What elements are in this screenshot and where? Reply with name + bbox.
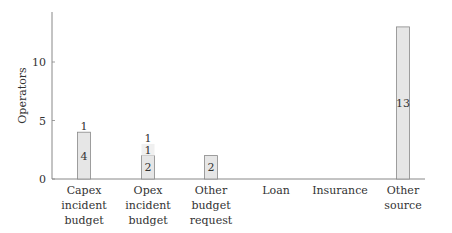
- bar-value-label: 1: [145, 132, 152, 145]
- x-tick-label: budget: [64, 214, 104, 227]
- bar-value-label: 1: [81, 120, 88, 133]
- bar-value-label: 1: [145, 144, 152, 157]
- x-tick-label: incident: [125, 199, 171, 212]
- bar-value-label: 2: [208, 161, 215, 174]
- y-tick-label: 10: [32, 56, 46, 69]
- x-tick-label: Other: [387, 184, 420, 197]
- x-tick-label: Insurance: [312, 184, 368, 197]
- x-tick-label: source: [384, 199, 421, 212]
- bar-value-label: 4: [81, 150, 88, 163]
- x-tick-label: Capex: [67, 184, 103, 197]
- x-tick-label: incident: [61, 199, 107, 212]
- x-tick-label: Other: [195, 184, 228, 197]
- x-tick-label: budget: [191, 199, 231, 212]
- x-tick-label: budget: [128, 214, 168, 227]
- x-tick-label: request: [190, 214, 233, 227]
- y-tick-label: 5: [39, 115, 46, 128]
- bar-chart: 0510Operators41Capexincidentbudget211Ope…: [0, 0, 452, 233]
- x-tick-label: Opex: [134, 184, 164, 197]
- bar-value-label: 2: [145, 161, 152, 174]
- chart: 0510Operators41Capexincidentbudget211Ope…: [0, 0, 452, 233]
- x-tick-label: Loan: [262, 184, 290, 197]
- y-tick-label: 0: [39, 173, 46, 186]
- y-axis-label: Operators: [16, 67, 29, 124]
- bar-value-label: 13: [396, 97, 410, 110]
